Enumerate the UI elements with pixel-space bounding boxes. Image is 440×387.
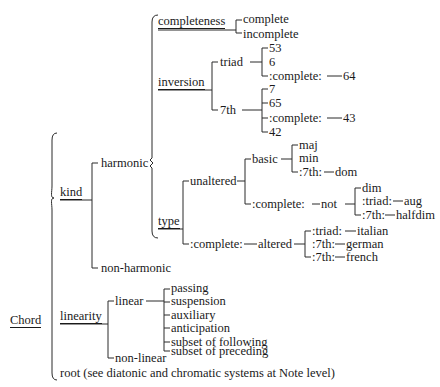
leaf-basic-7th: :7th: (299, 165, 322, 179)
node-basic: basic (252, 152, 278, 166)
node-completeness: completeness (158, 14, 225, 29)
node-inversion: inversion (158, 75, 205, 90)
leaf-incomplete: incomplete (243, 27, 299, 41)
leaf-not-triad: :triad: (362, 194, 392, 208)
node-non-linear: non-linear (115, 351, 166, 365)
leaf-passing: passing (171, 281, 209, 295)
leaf-7th-complete: :complete: (269, 111, 322, 125)
leaf-65: 65 (269, 96, 282, 110)
leaf-aug: aug (404, 194, 422, 208)
node-linear: linear (115, 294, 143, 308)
leaf-complete: complete (243, 12, 289, 26)
leaf-altered-triad: :triad: (312, 224, 342, 238)
node-linearity: linearity (60, 309, 102, 324)
leaf-anticipation: anticipation (171, 321, 230, 335)
chord-brace-bottom (52, 198, 58, 380)
node-kind: kind (60, 185, 82, 200)
leaf-subset-preceding: subset of preceding (171, 344, 268, 358)
node-chord: Chord (10, 313, 41, 328)
leaf-min: min (299, 151, 318, 165)
node-type: type (158, 214, 180, 229)
leaf-not-7th: :7th: (362, 208, 385, 222)
leaf-42: 42 (269, 125, 282, 139)
leaf-italian: italian (357, 224, 388, 238)
leaf-halfdim: halfdim (396, 208, 435, 222)
chord-brace-top (52, 133, 58, 198)
node-root: root (see diatonic and chromatic systems… (60, 366, 335, 380)
leaf-53: 53 (269, 41, 282, 55)
leaf-dim: dim (362, 181, 381, 195)
leaf-suspension: suspension (171, 294, 226, 308)
leaf-auxiliary: auxiliary (171, 308, 215, 322)
node-triad: triad (220, 55, 243, 69)
node-harmonic: harmonic (101, 156, 148, 170)
leaf-43: 43 (343, 111, 356, 125)
node-unaltered: unaltered (190, 174, 237, 188)
leaf-german: german (346, 237, 383, 251)
leaf-6: 6 (269, 55, 275, 69)
leaf-altered-7th-2: :7th: (312, 250, 335, 264)
leaf-7: 7 (269, 82, 275, 96)
node-unaltered-complete: :complete: (252, 197, 305, 211)
node-non-harmonic: non-harmonic (101, 261, 171, 275)
leaf-dom: dom (335, 165, 357, 179)
leaf-64: 64 (343, 69, 356, 83)
leaf-maj: maj (299, 138, 318, 152)
node-type-complete: :complete: (190, 237, 243, 251)
node-altered: altered (258, 237, 292, 251)
node-7th: 7th (220, 103, 236, 117)
leaf-altered-7th-1: :7th: (312, 237, 335, 251)
node-not: not (321, 197, 337, 211)
leaf-french: french (346, 250, 378, 264)
leaf-triad-complete: :complete: (269, 69, 322, 83)
